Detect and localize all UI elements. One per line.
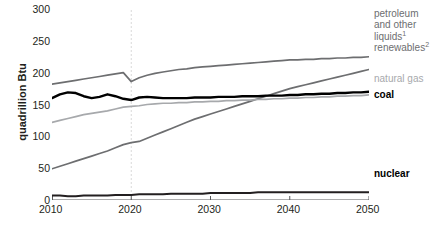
x-tick-2010: 2010 <box>39 203 62 215</box>
y-tick-50: 50 <box>18 163 50 173</box>
y-axis-tick-labels: 050100150200250300 <box>18 0 50 234</box>
legend-label: natural gas <box>374 73 423 84</box>
series-line-coal <box>52 92 369 100</box>
legend-item-nuclear: nuclear <box>374 168 410 179</box>
series-line-renewables <box>52 69 369 168</box>
legend-item-natural-gas: natural gas <box>374 73 423 84</box>
x-tick-2040: 2040 <box>277 203 300 215</box>
legend-item-and-other: and other <box>374 19 416 30</box>
series-canvas <box>52 9 369 200</box>
x-tick-2030: 2030 <box>198 203 221 215</box>
y-tick-300: 300 <box>18 4 50 14</box>
legend-label: renewables <box>374 42 425 53</box>
y-tick-100: 100 <box>18 131 50 141</box>
legend: petroleumand otherliquids1renewables2nat… <box>374 0 437 234</box>
legend-label: and other <box>374 19 416 30</box>
plot-area <box>52 9 369 200</box>
legend-item-liquids: liquids1 <box>374 31 406 42</box>
y-tick-200: 200 <box>18 68 50 78</box>
legend-item-renewables: renewables2 <box>374 42 429 53</box>
x-tick-2020: 2020 <box>118 203 141 215</box>
y-tick-150: 150 <box>18 100 50 110</box>
energy-projection-chart: quadrillion Btu 050100150200250300 20102… <box>0 0 437 234</box>
x-axis-tick-labels: 20102020203020402050 <box>0 203 437 219</box>
legend-label: petroleum <box>374 8 418 19</box>
legend-footnote-marker: 1 <box>402 29 406 36</box>
legend-label: coal <box>374 89 394 100</box>
y-tick-250: 250 <box>18 36 50 46</box>
legend-item-petroleum: petroleum <box>374 8 418 19</box>
legend-item-coal: coal <box>374 89 394 100</box>
legend-footnote-marker: 2 <box>425 41 429 48</box>
legend-label: liquids <box>374 31 402 42</box>
series-line-natural-gas <box>52 95 369 122</box>
series-line-petroleum-and-other-liquids <box>52 57 369 84</box>
legend-label: nuclear <box>374 168 410 179</box>
series-line-nuclear <box>52 192 369 196</box>
